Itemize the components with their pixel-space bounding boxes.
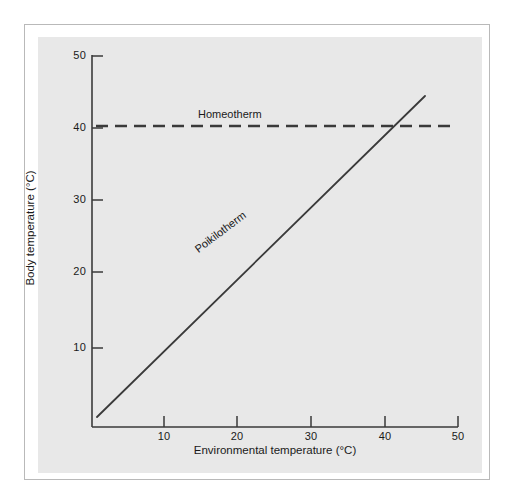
x-tick-label-30: 30 — [296, 430, 326, 442]
series-line-poikilotherm — [97, 96, 425, 417]
y-tick-label-40: 40 — [60, 121, 86, 133]
y-tick-label-50: 50 — [60, 49, 86, 61]
y-tick-label-30: 30 — [60, 193, 86, 205]
plot-svg — [0, 0, 512, 498]
series-annotation-homeotherm: Homeotherm — [198, 108, 262, 120]
y-tick-label-20: 20 — [60, 265, 86, 277]
x-tick-label-40: 40 — [370, 430, 400, 442]
y-axis-title: Body temperature (°C) — [24, 153, 36, 303]
x-tick-marks — [164, 416, 458, 427]
x-tick-label-10: 10 — [149, 430, 179, 442]
figure-container: 50 40 30 20 10 10 20 30 40 50 Body tempe… — [0, 0, 512, 498]
x-tick-label-50: 50 — [443, 430, 473, 442]
y-tick-label-10: 10 — [60, 341, 86, 353]
y-tick-marks — [92, 56, 103, 348]
x-tick-label-20: 20 — [222, 430, 252, 442]
x-axis-title: Environmental temperature (°C) — [180, 444, 370, 456]
